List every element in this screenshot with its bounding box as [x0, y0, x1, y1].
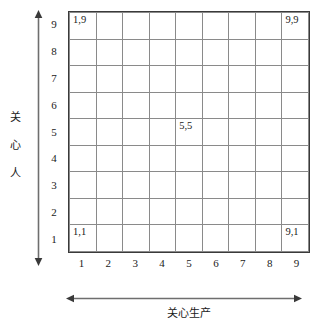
grid-cell-9-5 [282, 119, 309, 146]
grid-cell-1-4 [70, 145, 97, 172]
grid-cell-1-1: 1,1 [70, 225, 97, 252]
grid-cell-3-1 [123, 225, 150, 252]
grid-cell-3-7 [123, 66, 150, 93]
y-axis-arrow-icon [34, 10, 43, 266]
grid-cell-1-5 [70, 119, 97, 146]
y-axis-title-char-2: 心 [6, 138, 24, 152]
grid-cell-1-7 [70, 66, 97, 93]
cell-label-5-5: 5,5 [179, 120, 192, 132]
y-tick-3: 3 [46, 179, 62, 191]
grid-cell-7-3 [229, 172, 256, 199]
grid-cell-4-9 [149, 13, 176, 40]
x-tick-5: 5 [176, 256, 203, 270]
x-tick-9: 9 [283, 256, 310, 270]
grid-cell-3-3 [123, 172, 150, 199]
grid-cell-4-8 [149, 39, 176, 66]
grid-cell-7-6 [229, 92, 256, 119]
grid-cell-6-7 [202, 66, 229, 93]
cell-label-1-9: 1,9 [73, 14, 86, 26]
y-tick-6: 6 [46, 99, 62, 111]
grid-cell-2-7 [96, 66, 123, 93]
grid-cell-9-4 [282, 145, 309, 172]
grid-row-1: 1,1 9,1 [70, 225, 309, 252]
grid-row-6 [70, 92, 309, 119]
grid-cell-5-8 [176, 39, 203, 66]
grid-cell-4-7 [149, 66, 176, 93]
grid-cell-4-6 [149, 92, 176, 119]
grid-cell-2-2 [96, 198, 123, 225]
grid-cell-3-2 [123, 198, 150, 225]
grid-cell-8-3 [255, 172, 282, 199]
y-tick-8: 8 [46, 45, 62, 57]
grid-cell-7-1 [229, 225, 256, 252]
grid-cell-7-7 [229, 66, 256, 93]
grid-cell-5-2 [176, 198, 203, 225]
grid-cell-2-6 [96, 92, 123, 119]
grid-cell-7-5 [229, 119, 256, 146]
y-axis-title-char-3: 人 [6, 166, 24, 180]
grid-cell-5-5: 5,5 [176, 119, 203, 146]
grid-row-4 [70, 145, 309, 172]
grid-cell-4-4 [149, 145, 176, 172]
grid-cell-7-2 [229, 198, 256, 225]
grid-cell-4-1 [149, 225, 176, 252]
grid-cell-8-4 [255, 145, 282, 172]
grid-cell-5-7 [176, 66, 203, 93]
grid-cell-1-3 [70, 172, 97, 199]
grid-row-8 [70, 39, 309, 66]
grid-cell-8-7 [255, 66, 282, 93]
x-tick-4: 4 [149, 256, 176, 270]
grid-cell-3-4 [123, 145, 150, 172]
grid-cell-5-6 [176, 92, 203, 119]
grid-cell-3-6 [123, 92, 150, 119]
grid-cell-6-5 [202, 119, 229, 146]
x-tick-3: 3 [122, 256, 149, 270]
grid-cell-4-3 [149, 172, 176, 199]
grid-cell-8-5 [255, 119, 282, 146]
grid-cell-8-2 [255, 198, 282, 225]
grid-cell-7-9 [229, 13, 256, 40]
grid-cell-8-8 [255, 39, 282, 66]
managerial-grid-diagram: 关 心 人 9 8 7 6 5 4 3 2 1 1,9 9,9 [0, 0, 320, 335]
grid-cell-2-3 [96, 172, 123, 199]
grid-cell-5-1 [176, 225, 203, 252]
y-axis-tick-labels: 9 8 7 6 5 4 3 2 1 [46, 11, 62, 253]
x-tick-6: 6 [202, 256, 229, 270]
grid-cell-7-8 [229, 39, 256, 66]
grid-cell-9-9: 9,9 [282, 13, 309, 40]
grid-cell-1-2 [70, 198, 97, 225]
grid-cell-9-6 [282, 92, 309, 119]
grid-cell-6-8 [202, 39, 229, 66]
grid-cell-6-9 [202, 13, 229, 40]
x-tick-1: 1 [68, 256, 95, 270]
grid-cell-7-4 [229, 145, 256, 172]
grid-cell-2-1 [96, 225, 123, 252]
grid-plot-area: 1,9 9,9 [68, 11, 310, 253]
grid-cell-3-5 [123, 119, 150, 146]
grid-cell-8-9 [255, 13, 282, 40]
y-tick-2: 2 [46, 206, 62, 218]
grid-cell-8-6 [255, 92, 282, 119]
cell-label-1-1: 1,1 [73, 226, 86, 238]
x-tick-2: 2 [95, 256, 122, 270]
y-tick-9: 9 [46, 18, 62, 30]
grid-row-7 [70, 66, 309, 93]
grid-cell-6-4 [202, 145, 229, 172]
grid-cell-1-9: 1,9 [70, 13, 97, 40]
cell-label-9-1: 9,1 [285, 226, 298, 238]
grid-row-9: 1,9 9,9 [70, 13, 309, 40]
grid-row-2 [70, 198, 309, 225]
y-axis-title-char-1: 关 [6, 110, 24, 124]
x-tick-8: 8 [256, 256, 283, 270]
grid-cell-1-8 [70, 39, 97, 66]
y-tick-1: 1 [46, 233, 62, 245]
grid-cell-9-1: 9,1 [282, 225, 309, 252]
cell-label-9-9: 9,9 [285, 14, 298, 26]
grid-cell-6-2 [202, 198, 229, 225]
y-tick-7: 7 [46, 72, 62, 84]
grid-cell-6-3 [202, 172, 229, 199]
grid-row-3 [70, 172, 309, 199]
y-tick-4: 4 [46, 152, 62, 164]
grid-cell-2-4 [96, 145, 123, 172]
grid-cell-2-5 [96, 119, 123, 146]
